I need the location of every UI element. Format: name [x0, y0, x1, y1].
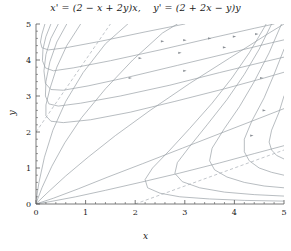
flow-arrow-marker — [263, 109, 266, 111]
plot-svg: 012345012345 — [0, 18, 291, 223]
trajectory-curve — [44, 24, 284, 90]
flow-arrow-marker — [250, 135, 253, 137]
flow-arrow-marker — [129, 77, 132, 79]
flow-arrow-marker — [208, 37, 211, 39]
y-tick-label: 4 — [26, 56, 31, 65]
flow-arrow-marker — [233, 36, 236, 38]
x-axis-label: x — [0, 231, 291, 241]
flow-arrow-marker — [223, 46, 226, 48]
flow-arrow-marker — [255, 33, 258, 35]
title-equation-y: y' = (2 + 2x − y)y — [153, 2, 240, 13]
phase-portrait-figure: x' = (2 − x + 2y)x, y' = (2 + 2x − y)y y… — [0, 0, 291, 251]
x-tick-label: 3 — [182, 208, 187, 217]
y-tick-label: 2 — [26, 128, 31, 137]
flow-arrow-marker — [183, 39, 186, 41]
y-tick-label: 3 — [26, 92, 31, 101]
trajectory-curve — [145, 24, 284, 201]
trajectory-curve — [45, 24, 284, 106]
nullcline-dashed-line — [36, 24, 110, 132]
flow-arrow-marker — [161, 40, 164, 42]
trajectory-curve — [42, 24, 274, 71]
flow-arrow-marker — [183, 70, 186, 72]
y-tick-label: 0 — [26, 200, 31, 209]
x-tick-label: 5 — [281, 208, 286, 217]
title-equation-x: x' = (2 − x + 2y)x, — [50, 2, 140, 13]
figure-title: x' = (2 − x + 2y)x, y' = (2 + 2x − y)y — [0, 2, 291, 13]
x-tick-label: 0 — [33, 208, 38, 217]
y-tick-label: 1 — [26, 164, 31, 173]
flow-arrow-marker — [178, 52, 181, 54]
x-tick-label: 4 — [232, 208, 237, 217]
trajectory-curve — [269, 96, 284, 159]
flow-arrow-marker — [139, 57, 142, 59]
plot-area: 012345012345 — [0, 18, 291, 223]
x-tick-label: 1 — [83, 208, 88, 217]
trajectory-curve — [46, 24, 284, 123]
x-tick-label: 2 — [133, 208, 138, 217]
y-tick-label: 5 — [26, 20, 31, 29]
trajectory-curve — [37, 146, 284, 204]
trajectory-curve — [37, 24, 285, 203]
